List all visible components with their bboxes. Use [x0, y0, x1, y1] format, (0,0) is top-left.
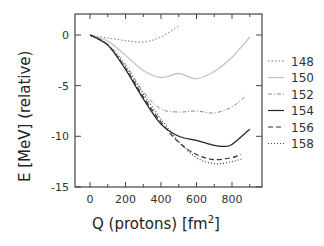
plot-frame: [75, 14, 262, 187]
legend-label-154: 154: [291, 104, 314, 118]
y-axis-ticks: 0-5-10-15: [51, 29, 262, 194]
y-tick-label: -5: [58, 80, 69, 93]
series-lines: [90, 26, 250, 164]
y-tick-label: 0: [62, 29, 69, 42]
x-tick-label: 0: [87, 193, 94, 206]
x-axis-title: Q (protons) [fm2]: [92, 214, 220, 233]
chart: 0200400600800 0-5-10-15 1481501521541561…: [0, 0, 324, 246]
series-line-156: [90, 35, 241, 160]
series-line-152: [90, 35, 246, 113]
legend-label-152: 152: [291, 88, 314, 102]
series-line-154: [90, 35, 250, 146]
legend-label-158: 158: [291, 137, 314, 151]
legend-label-148: 148: [291, 55, 314, 69]
legend-label-150: 150: [291, 71, 314, 85]
legend: 148150152154156158: [268, 55, 314, 152]
x-tick-label: 400: [151, 193, 172, 206]
y-tick-label: -10: [51, 130, 69, 143]
y-axis-title: E [MeV] (relative): [16, 51, 34, 182]
series-line-148: [90, 26, 179, 42]
series-line-158: [90, 35, 243, 164]
x-tick-label: 200: [115, 193, 136, 206]
legend-label-156: 156: [291, 121, 314, 135]
x-tick-label: 600: [186, 193, 207, 206]
y-tick-label: -15: [51, 181, 69, 194]
x-tick-label: 800: [222, 193, 243, 206]
series-line-150: [90, 35, 250, 79]
